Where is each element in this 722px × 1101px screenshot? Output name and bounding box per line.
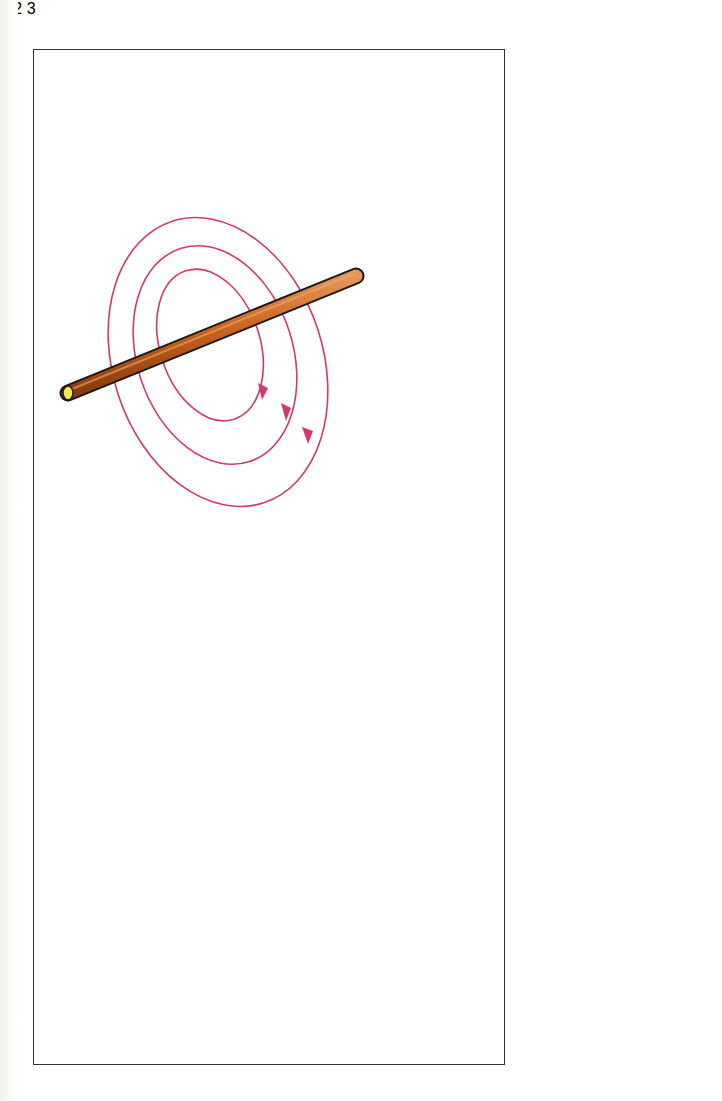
figure-1-straight-wire — [72, 189, 363, 535]
field-ring-outer — [72, 189, 363, 535]
field-ring-inner — [138, 255, 281, 434]
copper-wire — [63, 274, 356, 400]
magnetic-field-diagrams — [0, 0, 722, 1101]
wire-end-icon — [63, 386, 73, 400]
field-ring-middle — [106, 224, 324, 485]
arrow-up-icon — [302, 427, 313, 444]
figure-1-arrows — [258, 383, 313, 444]
